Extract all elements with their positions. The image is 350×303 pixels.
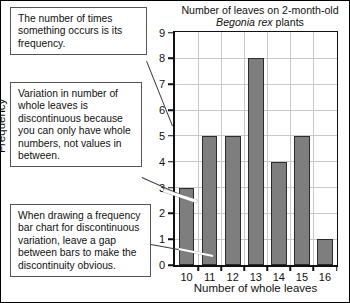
bar-15	[294, 136, 310, 265]
annotation-text: When drawing a frequency bar chart for d…	[18, 210, 141, 271]
annotation-gap-between-bars: When drawing a frequency bar chart for d…	[10, 204, 151, 277]
gridline-vertical	[221, 32, 222, 265]
x-tick-mark	[336, 266, 338, 271]
plot-area	[173, 31, 338, 267]
chart-title-species: Begonia rex	[216, 16, 273, 28]
y-tick-mark	[168, 83, 173, 85]
chart-title-suffix: plants	[273, 16, 304, 28]
y-tick-mark	[168, 213, 173, 215]
y-tick-label: 4	[143, 156, 165, 168]
gridline-vertical	[313, 32, 314, 265]
bar-11	[202, 136, 218, 265]
y-tick-label: 6	[143, 104, 165, 116]
bar-13	[248, 58, 264, 265]
gridline-vertical	[267, 32, 268, 265]
bar-12	[225, 136, 241, 265]
y-tick-mark	[168, 238, 173, 240]
annotation-text: Variation in number of whole leaves is d…	[18, 88, 131, 161]
chart-title: Number of leaves on 2-month-old Begonia …	[169, 4, 350, 29]
figure-page: Number of leaves on 2-month-old Begonia …	[0, 0, 350, 303]
y-tick-mark	[168, 32, 173, 34]
annotation-frequency-definition: The number of times something occurs is …	[10, 7, 147, 55]
y-tick-label: 5	[143, 130, 165, 142]
y-axis-title: Frequency	[0, 99, 7, 153]
annotation-discontinuous-variation: Variation in number of whole leaves is d…	[10, 82, 142, 167]
y-tick-mark	[168, 109, 173, 111]
x-axis-title: Number of whole leaves	[173, 282, 338, 294]
gridline-vertical	[244, 32, 245, 265]
y-tick-mark	[168, 264, 173, 266]
annotation-text: The number of times something occurs is …	[18, 13, 122, 49]
bar-16	[317, 239, 333, 265]
x-tick-label: 16	[312, 271, 338, 283]
y-tick-mark	[168, 161, 173, 163]
y-tick-mark	[168, 58, 173, 60]
y-tick-mark	[168, 135, 173, 137]
gridline-vertical	[198, 32, 199, 265]
bar-14	[271, 162, 287, 265]
gridline-vertical	[290, 32, 291, 265]
chart-title-line1: Number of leaves on 2-month-old	[181, 4, 338, 16]
